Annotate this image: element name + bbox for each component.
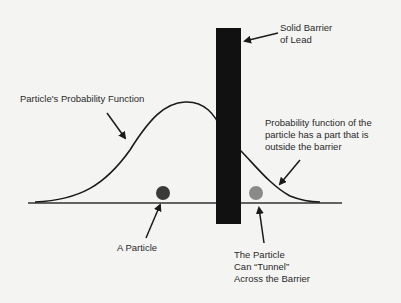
tunnel-label-line2: Can “Tunnel” [234,261,310,273]
barrier-arrow [245,33,278,41]
barrier-label: Solid Barrier of Lead [280,22,332,46]
outside-label-line3: outside the barrier [265,141,372,153]
tunnel-label-line3: Across the Barrier [234,273,310,285]
probability-function-arrow [107,113,125,138]
outside-label-line1: Probability function of the [265,117,372,129]
particle-arrow [146,205,160,238]
tunnel-label-line1: The Particle [234,249,310,261]
probability-function-label: Particle's Probability Function [20,93,144,105]
outside-barrier-label: Probability function of the particle has… [265,117,372,153]
lead-barrier [216,28,241,224]
tunnel-arrow [259,208,264,243]
tunneled-particle [249,186,263,200]
particle-label: A Particle [117,242,157,254]
outside-arrow [280,160,300,184]
barrier-label-line2: of Lead [280,34,332,46]
particle [156,186,170,200]
outside-label-line2: particle has a part that is [265,129,372,141]
tunnel-label: The Particle Can “Tunnel” Across the Bar… [234,249,310,285]
barrier-label-line1: Solid Barrier [280,22,332,34]
